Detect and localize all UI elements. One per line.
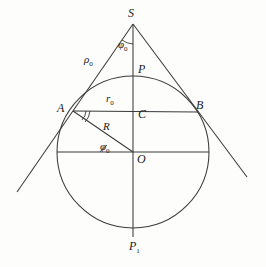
point-label-c: C [138, 108, 146, 120]
measure-label-r-base: R [103, 120, 110, 132]
measure-label-phi0-center-sub: 0 [106, 147, 110, 155]
point-label-b: B [196, 99, 203, 111]
measure-label-r: R [103, 121, 110, 132]
measure-label-r0: r0 [106, 93, 114, 107]
measure-label-phi0-apex: φ0 [118, 39, 128, 53]
geometry-figure [0, 0, 266, 267]
measure-label-rho0-sub: 0 [89, 60, 93, 68]
point-label-o: O [137, 153, 146, 165]
measure-label-rho0: ρ0 [84, 54, 93, 68]
point-label-p1-sub: 1 [136, 247, 140, 255]
point-label-p: P [138, 63, 145, 75]
measure-label-phi0-center: φ0 [100, 141, 110, 155]
point-label-p1: P1 [129, 240, 140, 255]
measure-label-r0-sub: 0 [110, 99, 114, 107]
measure-label-phi0-apex-sub: 0 [124, 45, 128, 53]
tangent-line-right [133, 24, 247, 177]
chord-line-ab [73, 111, 198, 112]
point-label-a: A [57, 102, 64, 114]
point-label-s: S [128, 7, 134, 19]
tangent-line-left [17, 24, 133, 192]
